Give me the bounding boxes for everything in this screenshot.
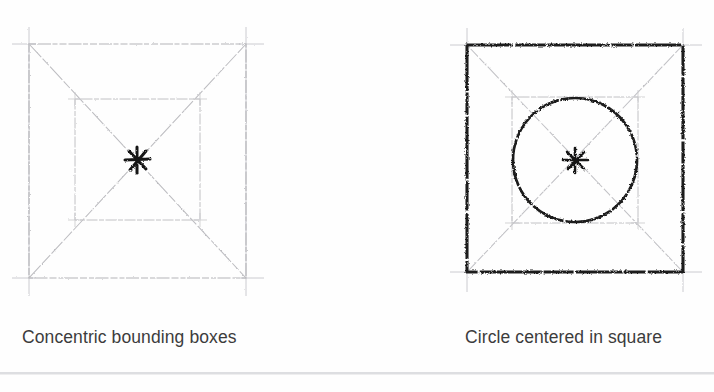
figure-page: Concentric bounding boxes [0,0,714,392]
figure-pair: Concentric bounding boxes [0,0,714,392]
circle-centered-in-square-drawing [357,0,714,310]
center-cross-mark [563,148,588,173]
footer-divider [0,372,714,374]
figure-caption-left: Concentric bounding boxes [0,326,379,348]
figure-circle-centered-in-square: Circle centered in square [357,0,714,392]
figure-caption-right: Circle centered in square [357,326,714,348]
center-cross-mark [125,147,150,173]
concentric-bounding-boxes-drawing [0,0,357,310]
figure-concentric-bounding-boxes: Concentric bounding boxes [0,0,357,392]
